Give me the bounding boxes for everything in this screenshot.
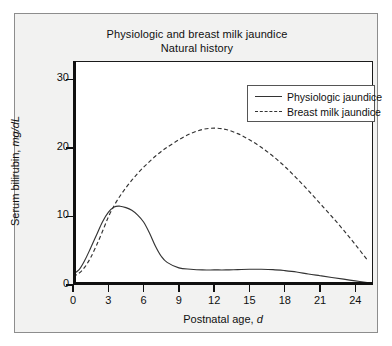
series-line-dashed bbox=[73, 128, 367, 276]
x-tick bbox=[249, 285, 250, 292]
y-axis-line bbox=[73, 61, 76, 285]
x-tick bbox=[355, 285, 356, 292]
y-tick-label: 30 bbox=[39, 71, 69, 83]
legend-item[interactable]: Physiologic jaundice bbox=[253, 89, 369, 104]
x-axis-label-units: d bbox=[257, 313, 263, 325]
x-axis-line bbox=[73, 282, 373, 285]
x-tick bbox=[284, 285, 285, 292]
y-tick-label: 10 bbox=[39, 208, 69, 220]
x-tick-label: 0 bbox=[61, 294, 85, 306]
x-tick-label: 21 bbox=[308, 294, 332, 306]
legend-box: Physiologic jaundiceBreast milk jaundice bbox=[247, 85, 375, 122]
x-tick bbox=[178, 285, 179, 292]
y-tick-label: 20 bbox=[39, 140, 69, 152]
x-tick-label: 6 bbox=[132, 294, 156, 306]
x-tick bbox=[108, 285, 109, 292]
y-tick-label: 0 bbox=[39, 277, 69, 289]
chart-title: Physiologic and breast milk jaundice Nat… bbox=[15, 28, 379, 55]
x-tick-label: 3 bbox=[96, 294, 120, 306]
x-axis-label-text: Postnatal age, bbox=[183, 313, 256, 325]
chart-title-line-2: Natural history bbox=[15, 42, 379, 56]
figure-container: Physiologic and breast milk jaundice Nat… bbox=[14, 13, 378, 333]
x-tick-label: 24 bbox=[343, 294, 367, 306]
legend-item-label: Physiologic jaundice bbox=[284, 91, 382, 103]
x-tick-label: 12 bbox=[202, 294, 226, 306]
x-tick bbox=[213, 285, 214, 292]
x-tick bbox=[143, 285, 144, 292]
dashed-line-icon bbox=[253, 107, 284, 117]
x-axis-label: Postnatal age, d bbox=[73, 313, 373, 325]
series-line-solid bbox=[73, 206, 367, 282]
plot-area: 0102030 03691215182124 Serum bilirubin, … bbox=[73, 61, 373, 285]
y-axis-label-text: Serum bilirubin, bbox=[9, 147, 21, 226]
legend-item[interactable]: Breast milk jaundice bbox=[253, 104, 369, 119]
x-tick bbox=[72, 285, 73, 292]
x-tick bbox=[319, 285, 320, 292]
y-axis-label: Serum bilirubin, mg/dL bbox=[9, 86, 21, 256]
x-tick-label: 18 bbox=[273, 294, 297, 306]
solid-line-icon bbox=[253, 92, 284, 102]
chart-title-line-1: Physiologic and breast milk jaundice bbox=[15, 28, 379, 42]
x-tick-label: 9 bbox=[167, 294, 191, 306]
x-tick-label: 15 bbox=[237, 294, 261, 306]
legend-item-label: Breast milk jaundice bbox=[284, 106, 381, 118]
y-axis-label-units: mg/dL bbox=[9, 116, 21, 147]
